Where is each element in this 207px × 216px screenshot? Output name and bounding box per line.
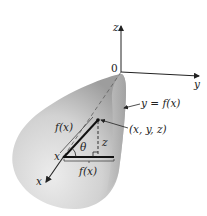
x-axis-label: x	[36, 176, 42, 187]
slant-radius-label: f(x)	[55, 122, 73, 133]
z-axis-label: z	[113, 22, 119, 33]
point-x	[63, 156, 66, 159]
point-label: (x, y, z)	[129, 124, 167, 135]
point-xyz	[96, 118, 100, 122]
curve-pointer	[124, 104, 140, 108]
z-height-label: z	[102, 137, 108, 148]
horizontal-radius-label: f(x)	[79, 166, 97, 177]
curve-label: y = f(x)	[141, 98, 180, 109]
y-axis	[121, 72, 199, 76]
x-point-label: x	[54, 151, 60, 162]
origin-label: 0	[111, 63, 118, 74]
y-axis-label: y	[194, 79, 200, 90]
solid-of-revolution-diagram: z 0 y x y = f(x) (x, y, z) f(x) f(x) z θ…	[0, 0, 207, 216]
theta-label: θ	[80, 142, 86, 153]
